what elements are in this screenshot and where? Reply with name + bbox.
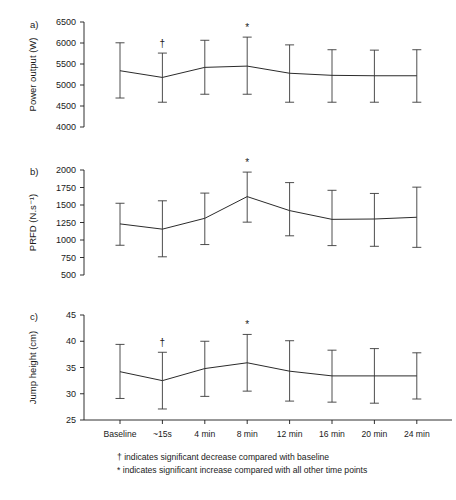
x-tick-label: 4 min xyxy=(194,429,215,439)
y-tick-label-c: 45 xyxy=(66,310,76,320)
footnote-line: † indicates significant decrease compare… xyxy=(117,452,329,462)
panel-letter-a: a) xyxy=(30,19,38,30)
significance-marker: * xyxy=(245,157,249,168)
panel-a: a)400045005000550060006500Power output (… xyxy=(27,17,421,132)
y-tick-label-c: 25 xyxy=(66,415,76,425)
significance-marker: * xyxy=(245,319,249,330)
y-axis-title-a: Power output (W) xyxy=(27,38,38,112)
panel-c: c)2530354045Jump height (cm)†* xyxy=(27,310,421,425)
y-tick-label-b: 1000 xyxy=(56,235,76,245)
y-tick-label-a: 6500 xyxy=(56,17,76,27)
y-tick-label-a: 4500 xyxy=(56,101,76,111)
y-tick-label-b: 1750 xyxy=(56,183,76,193)
panel-letter-c: c) xyxy=(30,311,38,322)
significance-marker: † xyxy=(160,337,166,348)
significance-marker: * xyxy=(245,22,249,33)
x-tick-label: 20 min xyxy=(362,429,388,439)
x-tick-label: 12 min xyxy=(277,429,303,439)
panel-letter-b: b) xyxy=(30,166,38,177)
y-tick-label-b: 750 xyxy=(61,253,76,263)
y-tick-label-a: 6000 xyxy=(56,38,76,48)
panel-b: b)50075010001250150017502000PRFD (N.s⁻¹)… xyxy=(27,157,421,280)
x-tick-label: 24 min xyxy=(404,429,430,439)
x-tick-label: 8 min xyxy=(237,429,258,439)
significance-marker: † xyxy=(160,38,166,49)
mean-line-a xyxy=(120,66,417,77)
y-axis-title-c: Jump height (cm) xyxy=(27,331,38,404)
y-tick-label-b: 2000 xyxy=(56,165,76,175)
y-tick-label-b: 1500 xyxy=(56,200,76,210)
footnote-line: * indicates significant increase compare… xyxy=(117,465,367,475)
figure-container: a)400045005000550060006500Power output (… xyxy=(0,0,456,500)
y-tick-label-a: 5000 xyxy=(56,80,76,90)
mean-line-c xyxy=(120,363,417,381)
y-tick-label-c: 30 xyxy=(66,389,76,399)
y-axis-title-b: PRFD (N.s⁻¹) xyxy=(27,194,38,251)
x-tick-label: ~15s xyxy=(153,429,172,439)
x-tick-label: 16 min xyxy=(319,429,345,439)
y-tick-label-b: 1250 xyxy=(56,218,76,228)
figure-svg: a)400045005000550060006500Power output (… xyxy=(0,0,456,500)
y-tick-label-a: 5500 xyxy=(56,59,76,69)
y-tick-label-c: 40 xyxy=(66,336,76,346)
y-tick-label-c: 35 xyxy=(66,363,76,373)
y-tick-label-b: 500 xyxy=(61,270,76,280)
x-axis-group: Baseline~15s4 min8 min12 min16 min20 min… xyxy=(84,420,452,439)
footnotes: † indicates significant decrease compare… xyxy=(117,452,367,475)
mean-line-b xyxy=(120,197,417,230)
y-tick-label-a: 4000 xyxy=(56,122,76,132)
x-tick-label: Baseline xyxy=(104,429,137,439)
